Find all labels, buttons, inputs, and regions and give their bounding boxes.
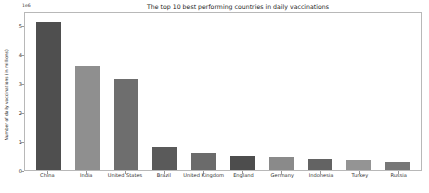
x-tick-label-united-states: United States — [106, 172, 145, 186]
bar-slot — [301, 13, 340, 170]
bar-slot — [262, 13, 301, 170]
x-tick-label-germany: Germany — [263, 172, 302, 186]
y-axis-label: Number of daily vaccinations (in million… — [4, 10, 13, 180]
bar-slot — [107, 13, 146, 170]
bar-slot — [145, 13, 184, 170]
y-tick-label: 4 — [0, 52, 22, 59]
y-tick-label: 2 — [0, 110, 22, 117]
bar-slot — [223, 13, 262, 170]
x-axis-tick-labels: ChinaIndiaUnited StatesBrazilUnited King… — [24, 172, 422, 186]
bar-series — [25, 13, 421, 170]
bar-united-kingdom[interactable] — [191, 153, 216, 170]
x-tick-label-united-kingdom: United Kingdom — [183, 172, 224, 186]
y-tick-label: 3 — [0, 81, 22, 88]
x-tick-label-india: India — [67, 172, 106, 186]
y-tick-label: 0 — [0, 168, 22, 175]
x-tick-label-indonesia: Indonesia — [302, 172, 341, 186]
bar-slot — [184, 13, 223, 170]
x-tick-label-england: England — [224, 172, 263, 186]
plot-area — [24, 12, 422, 171]
bar-united-states[interactable] — [114, 79, 139, 170]
bar-slot — [378, 13, 417, 170]
bar-india[interactable] — [75, 66, 100, 170]
chart-figure: 1e6 The top 10 best performing countries… — [0, 0, 429, 193]
bar-turkey[interactable] — [346, 160, 371, 170]
bar-china[interactable] — [36, 22, 61, 170]
x-tick-label-brazil: Brazil — [144, 172, 183, 186]
bar-russia[interactable] — [385, 162, 410, 170]
bar-slot — [68, 13, 107, 170]
bar-germany[interactable] — [269, 157, 294, 170]
bar-indonesia[interactable] — [308, 159, 333, 170]
chart-title: The top 10 best performing countries in … — [54, 3, 422, 10]
x-tick-label-china: China — [28, 172, 67, 186]
y-tick-label: 5 — [0, 23, 22, 30]
bar-slot — [339, 13, 378, 170]
x-tick-label-russia: Russia — [379, 172, 418, 186]
y-axis-offset-label: 1e6 — [22, 3, 31, 8]
bar-slot — [29, 13, 68, 170]
x-tick-label-turkey: Turkey — [340, 172, 379, 186]
bar-england[interactable] — [230, 156, 255, 170]
y-tick-label: 1 — [0, 139, 22, 146]
bar-brazil[interactable] — [152, 147, 177, 170]
